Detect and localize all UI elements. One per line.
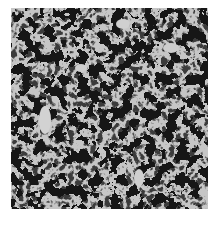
micrograph-image bbox=[11, 8, 208, 209]
microstructure-texture bbox=[11, 8, 208, 209]
